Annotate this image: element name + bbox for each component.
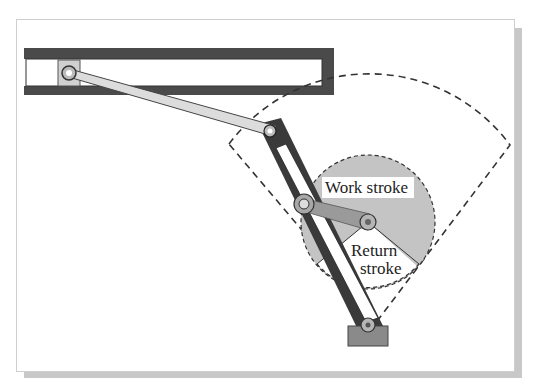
crank-pin: [299, 199, 309, 209]
mechanism-diagram: Work stroke Return stroke: [0, 0, 550, 392]
return-stroke-label-line2: stroke: [360, 259, 402, 278]
guide-rail-top: [24, 48, 334, 59]
guide-end: [322, 48, 334, 95]
work-stroke-label: Work stroke: [325, 178, 408, 197]
return-stroke-label-line1: Return: [351, 241, 398, 260]
